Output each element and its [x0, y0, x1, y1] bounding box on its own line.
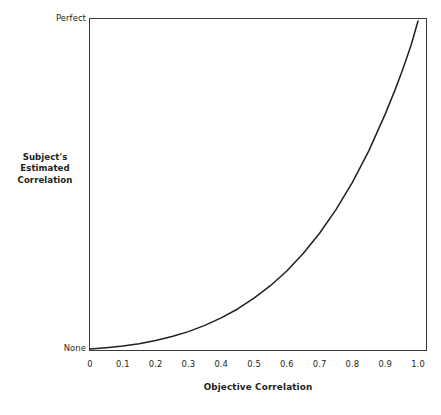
y-axis-min-label: None	[16, 344, 86, 353]
y-axis-max-label: Perfect	[16, 14, 86, 23]
y-axis-title-line-2: Estimated	[8, 163, 82, 174]
x-axis-title: Objective Correlation	[89, 382, 427, 392]
y-axis-title-line-1: Subject's	[8, 152, 82, 163]
y-axis-title: Subject's Estimated Correlation	[8, 152, 82, 186]
correlation-estimate-chart: Perfect None Subject's Estimated Correla…	[0, 0, 441, 415]
x-axis-tick-labels: 0 0.1 0.2 0.3 0.4 0.5 0.6 0.7 0.8 0.9 1.…	[0, 359, 441, 373]
x-tick-label-10: 1.0	[398, 359, 438, 370]
plot-area-frame	[89, 18, 427, 351]
y-axis-title-line-3: Correlation	[8, 175, 82, 186]
